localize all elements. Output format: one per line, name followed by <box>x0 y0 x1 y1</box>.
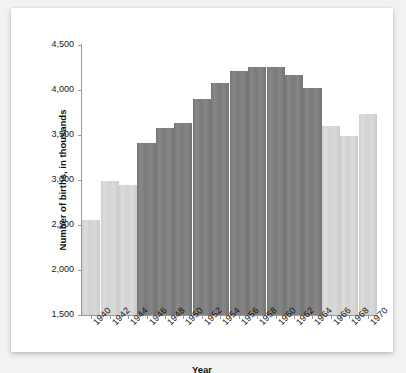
bar-1944[interactable] <box>119 185 137 315</box>
y-tick-label: 2,500 <box>36 219 74 229</box>
y-tick-mark <box>78 90 82 91</box>
y-tick-label: 4,000 <box>36 84 74 94</box>
bar-1960[interactable] <box>267 67 285 315</box>
y-tick-mark <box>78 135 82 136</box>
bar-1942[interactable] <box>101 181 119 315</box>
bar-1962[interactable] <box>285 75 303 315</box>
bar-1952[interactable] <box>193 99 211 315</box>
bar-1948[interactable] <box>156 128 174 315</box>
y-tick-label: 3,500 <box>36 129 74 139</box>
y-tick-mark <box>78 45 82 46</box>
bar-1964[interactable] <box>303 88 321 315</box>
bar-1968[interactable] <box>340 136 358 315</box>
plot-area: 1,5002,0002,5003,0003,5004,0004,500 <box>82 45 377 315</box>
y-tick-label: 4,500 <box>36 39 74 49</box>
bar-1954[interactable] <box>211 83 229 315</box>
bar-1958[interactable] <box>248 67 266 315</box>
y-tick-label: 1,500 <box>36 309 74 319</box>
bar-1940[interactable] <box>82 220 100 315</box>
bar-1950[interactable] <box>174 123 192 315</box>
bar-1956[interactable] <box>230 71 248 315</box>
bar-1946[interactable] <box>137 143 155 315</box>
chart-card: Number of births, in thousands 1,5002,00… <box>11 8 393 352</box>
bar-1966[interactable] <box>322 126 340 315</box>
y-tick-label: 3,000 <box>36 174 74 184</box>
y-tick-mark <box>78 180 82 181</box>
bar-1970[interactable] <box>359 114 377 315</box>
y-tick-label: 2,000 <box>36 264 74 274</box>
y-tick-mark <box>78 315 82 316</box>
x-axis-title: Year <box>11 364 393 373</box>
